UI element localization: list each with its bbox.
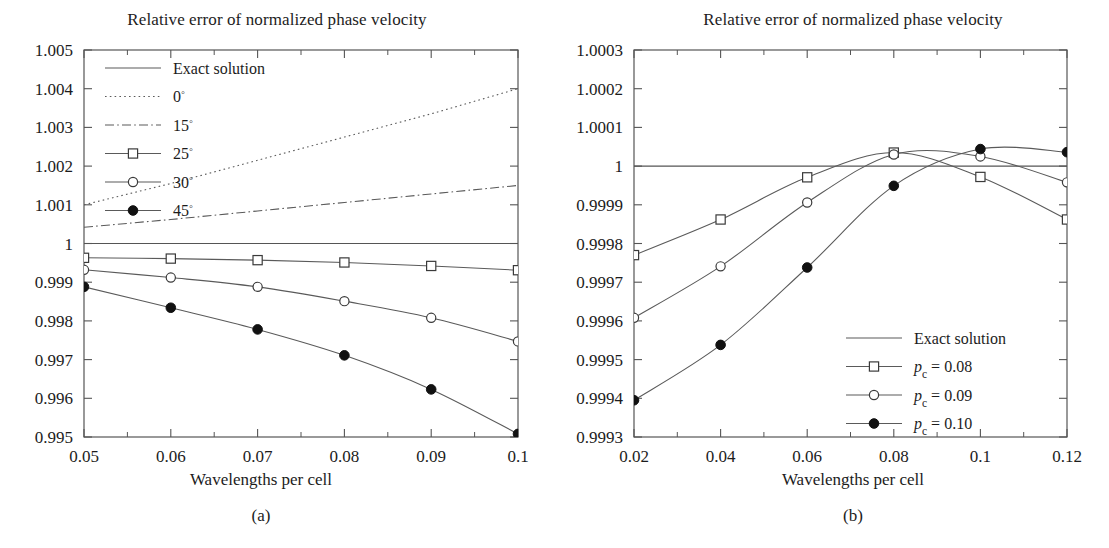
series-5 — [79, 282, 523, 439]
figure-root: Relative error of normalized phase veloc… — [0, 0, 1109, 548]
y-tick-label: 1.001 — [35, 196, 73, 215]
y-tick-label: 1 — [65, 235, 74, 254]
panel-b: Relative error of normalized phase veloc… — [554, 0, 1108, 548]
panel-a-plot: 0.9950.9960.9970.9980.99911.0011.0021.00… — [0, 0, 554, 470]
legend-label: Exact solution — [173, 60, 265, 77]
panel-a: Relative error of normalized phase veloc… — [0, 0, 554, 548]
series-3 — [79, 253, 522, 275]
x-tick-label: 0.05 — [69, 447, 99, 466]
panel-a-subcaption: (a) — [0, 506, 538, 526]
legend-label: 45◦ — [173, 200, 193, 219]
y-tick-label: 1.0003 — [576, 41, 623, 60]
x-tick-label: 0.08 — [879, 447, 909, 466]
y-tick-label: 0.999 — [35, 273, 73, 292]
x-tick-label: 0.02 — [619, 447, 649, 466]
y-tick-label: 1.004 — [35, 80, 74, 99]
legend-label: 30◦ — [173, 172, 193, 191]
y-tick-label: 1.003 — [35, 118, 73, 137]
series-2 — [84, 185, 518, 227]
x-tick-label: 0.04 — [706, 447, 736, 466]
y-tick-label: 1.0001 — [576, 118, 623, 137]
panel-b-plot: 0.99930.99940.99950.99960.99970.99980.99… — [554, 0, 1108, 470]
legend-label: pc= 0.09 — [913, 387, 972, 409]
legend-label: 0◦ — [173, 86, 185, 105]
series-4 — [79, 265, 522, 346]
series-1 — [629, 148, 1071, 260]
legend-label: 25◦ — [173, 143, 193, 162]
y-tick-label: 0.995 — [35, 428, 73, 447]
x-tick-label: 0.1 — [970, 447, 991, 466]
x-tick-label: 0.06 — [156, 447, 186, 466]
x-tick-label: 0.12 — [1052, 447, 1082, 466]
y-tick-label: 1 — [615, 157, 624, 176]
y-tick-label: 0.9999 — [576, 196, 623, 215]
y-tick-label: 0.9993 — [576, 428, 623, 447]
y-tick-label: 0.9994 — [576, 389, 623, 408]
y-tick-label: 1.005 — [35, 41, 73, 60]
y-tick-label: 0.997 — [35, 351, 74, 370]
legend: Exact solutionpc= 0.08pc= 0.09pc= 0.10 — [846, 330, 1006, 438]
x-tick-label: 0.07 — [243, 447, 273, 466]
panel-b-subcaption: (b) — [576, 506, 1109, 526]
x-tick-label: 0.06 — [792, 447, 822, 466]
y-tick-label: 0.996 — [35, 389, 73, 408]
y-tick-label: 0.9998 — [576, 235, 623, 254]
x-tick-label: 0.09 — [416, 447, 446, 466]
series-3 — [629, 144, 1072, 405]
series-2 — [629, 150, 1071, 323]
panel-b-xlabel: Wavelengths per cell — [576, 470, 1109, 490]
y-tick-label: 0.9996 — [576, 312, 623, 331]
legend-label: 15◦ — [173, 115, 193, 134]
y-tick-label: 0.9997 — [576, 273, 623, 292]
series-1 — [84, 89, 518, 205]
legend-label: Exact solution — [914, 330, 1006, 347]
y-tick-label: 1.002 — [35, 157, 73, 176]
legend-label: pc= 0.10 — [913, 415, 972, 437]
panel-a-xlabel: Wavelengths per cell — [0, 470, 538, 490]
y-tick-label: 0.998 — [35, 312, 73, 331]
legend: Exact solution0◦15◦25◦30◦45◦ — [105, 60, 265, 220]
y-tick-label: 0.9995 — [576, 351, 623, 370]
y-tick-label: 1.0002 — [576, 80, 623, 99]
x-tick-label: 0.1 — [507, 447, 528, 466]
legend-label: pc= 0.08 — [913, 358, 972, 380]
x-tick-label: 0.08 — [330, 447, 360, 466]
